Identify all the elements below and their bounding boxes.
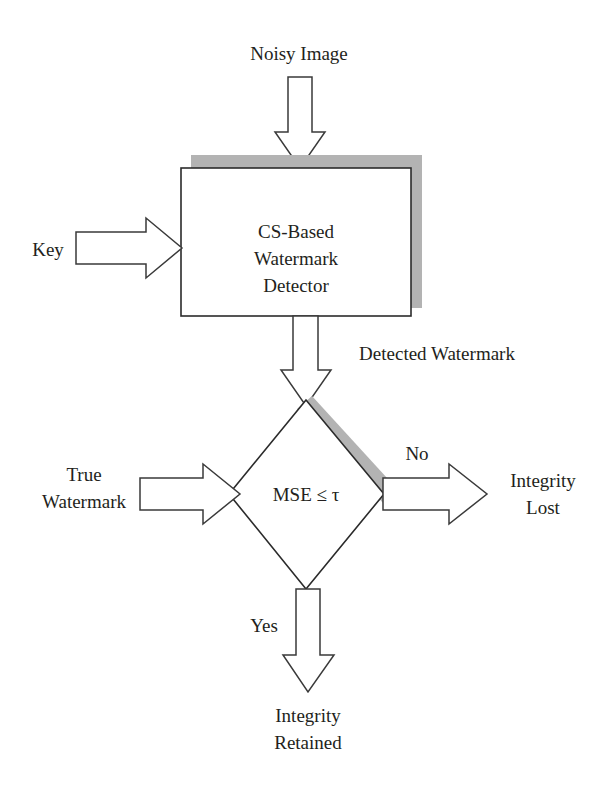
label-detected-watermark: Detected Watermark [359,343,515,364]
flowchart-diagram: Noisy Image CS-Based Watermark Detector … [0,0,613,790]
arrow-key-to-detector [76,218,182,278]
detector-label-line2: Watermark [254,248,338,269]
label-key: Key [32,239,64,260]
arrow-detector-to-decision [281,316,331,406]
label-yes: Yes [250,615,278,636]
detector-label-line1: CS-Based [258,221,335,242]
label-no: No [405,443,428,464]
decision-label-mse: MSE ≤ τ [273,484,340,505]
detector-label-line3: Detector [263,275,329,296]
label-integrity-lost-line1: Integrity [510,470,576,491]
label-true-watermark-line1: True [66,464,101,485]
label-true-watermark-line2: Watermark [42,491,126,512]
arrow-decision-to-integrity-lost [383,464,487,524]
arrow-true-watermark-to-decision [140,464,240,524]
label-integrity-retained-line2: Retained [274,732,342,753]
flowchart-canvas: Noisy Image CS-Based Watermark Detector … [0,0,613,790]
arrow-noisy-image-to-detector [275,77,325,168]
label-integrity-lost-line2: Lost [526,497,561,518]
arrow-decision-to-integrity-retained [283,589,334,692]
label-noisy-image: Noisy Image [250,43,348,64]
label-integrity-retained-line1: Integrity [275,705,341,726]
